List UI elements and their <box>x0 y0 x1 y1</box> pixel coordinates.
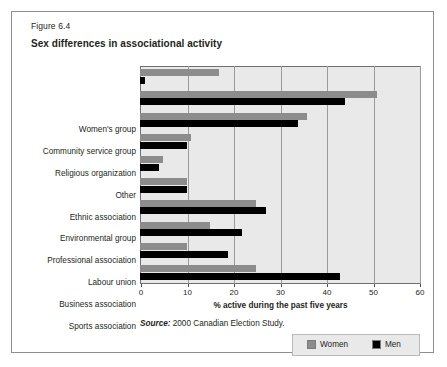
bar-women <box>140 69 219 76</box>
figure-frame: Figure 6.4 Sex differences in associatio… <box>11 11 434 353</box>
legend-label: Men <box>385 340 401 349</box>
category-label: Environmental group <box>60 234 136 243</box>
category-label: Other <box>115 191 136 200</box>
bar-group <box>140 110 421 132</box>
category-label: Business association <box>59 300 136 309</box>
bar-men <box>140 142 187 149</box>
category-label: Community service group <box>43 147 136 156</box>
bar-women <box>140 222 210 229</box>
bar-men <box>140 98 345 105</box>
bar-men <box>140 120 298 127</box>
source-note: Source: 2000 Canadian Election Study. <box>140 319 285 328</box>
category-label: Religious organization <box>55 169 136 178</box>
x-axis: 0102030405060 <box>140 284 421 300</box>
legend-item-women[interactable]: Women <box>307 340 348 349</box>
x-tick <box>281 284 282 287</box>
category-label: Sports association <box>69 322 136 331</box>
bar-men <box>140 229 242 236</box>
bar-women <box>140 200 256 207</box>
bar-women <box>140 178 187 185</box>
bar-group <box>140 153 421 175</box>
bar-men <box>140 186 187 193</box>
x-tick <box>327 284 328 287</box>
x-tick <box>141 284 142 287</box>
bar-chart: Women's groupCommunity service groupReli… <box>140 66 421 284</box>
bar-men <box>140 273 340 280</box>
bar-group <box>140 131 421 153</box>
bar-group <box>140 88 421 110</box>
page-title: Sex differences in associational activit… <box>31 38 222 49</box>
bar-women <box>140 265 256 272</box>
bar-group <box>140 240 421 262</box>
x-tick-label: 20 <box>230 288 239 297</box>
bar-group <box>140 219 421 241</box>
legend-swatch-women <box>307 340 316 349</box>
chart-legend: WomenMen <box>292 334 420 356</box>
bar-men <box>140 164 159 171</box>
x-axis-title: % active during the past five years <box>140 301 421 310</box>
figure-number: Figure 6.4 <box>31 21 70 31</box>
category-label: Labour union <box>88 278 136 287</box>
bar-group <box>140 175 421 197</box>
legend-swatch-men <box>372 340 381 349</box>
bar-men <box>140 77 145 84</box>
bar-women <box>140 91 377 98</box>
x-tick-label: 60 <box>416 288 425 297</box>
bar-women <box>140 243 187 250</box>
x-tick-label: 30 <box>276 288 285 297</box>
bar-group <box>140 66 421 88</box>
category-label: Ethnic association <box>70 213 136 222</box>
legend-item-men[interactable]: Men <box>372 340 401 349</box>
x-tick-label: 0 <box>139 288 143 297</box>
x-tick <box>420 284 421 287</box>
bar-men <box>140 207 266 214</box>
x-tick-label: 10 <box>183 288 192 297</box>
bar-women <box>140 134 191 141</box>
x-tick <box>188 284 189 287</box>
source-value: 2000 Canadian Election Study. <box>170 319 284 328</box>
category-label: Professional association <box>47 256 136 265</box>
category-label: Women's group <box>79 125 136 134</box>
x-tick-label: 50 <box>369 288 378 297</box>
legend-label: Women <box>320 340 348 349</box>
bar-women <box>140 113 307 120</box>
x-tick <box>234 284 235 287</box>
bar-group <box>140 197 421 219</box>
x-tick-label: 40 <box>323 288 332 297</box>
bar-women <box>140 156 163 163</box>
source-label: Source: <box>140 319 170 328</box>
x-tick <box>374 284 375 287</box>
bar-group <box>140 262 421 284</box>
bar-men <box>140 251 228 258</box>
category-axis-labels: Women's groupCommunity service groupReli… <box>16 120 136 338</box>
